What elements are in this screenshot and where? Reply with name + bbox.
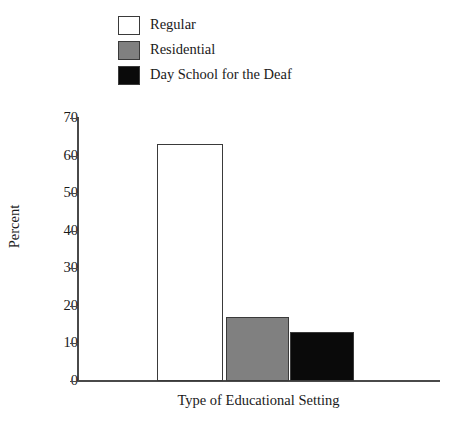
- y-tick-mark-40: [70, 231, 78, 232]
- y-tick-mark-30: [70, 268, 78, 269]
- bar-chart-plot: 010203040506070 Percent Type of Educatio…: [0, 0, 455, 421]
- y-tick-mark-60: [70, 156, 78, 157]
- y-tick-mark-70: [70, 118, 78, 119]
- y-tick-mark-20: [70, 306, 78, 307]
- bar-residential: [226, 317, 289, 381]
- x-axis-label: Type of Educational Setting: [77, 392, 440, 409]
- bar-regular: [157, 144, 223, 381]
- y-axis-label: Percent: [6, 187, 23, 267]
- y-tick-mark-10: [70, 343, 78, 344]
- y-tick-mark-0: [70, 381, 78, 382]
- y-tick-mark-50: [70, 193, 78, 194]
- bar-day-school-for-the-deaf: [290, 332, 354, 381]
